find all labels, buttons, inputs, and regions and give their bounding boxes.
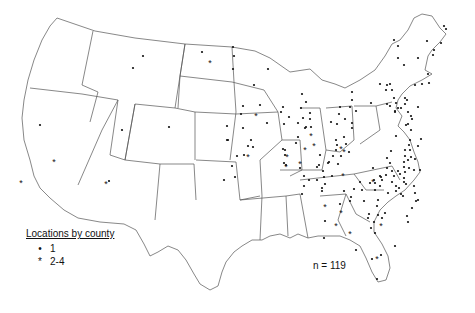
location-dot [372, 167, 374, 169]
location-dot [351, 99, 353, 101]
legend-label: 2-4 [50, 255, 64, 268]
location-dot [376, 278, 378, 280]
location-dot [359, 181, 361, 183]
location-dot [302, 117, 304, 119]
location-dot [403, 181, 405, 183]
location-dot [284, 149, 286, 151]
location-dot [405, 183, 407, 185]
location-asterisk: * [52, 157, 56, 167]
location-dot [408, 167, 410, 169]
location-dot [427, 73, 429, 75]
location-dot [336, 123, 338, 125]
location-dot [426, 40, 428, 42]
location-dot [379, 83, 381, 85]
location-dot [335, 149, 337, 151]
sample-size-label: n = 119 [313, 260, 346, 271]
location-dot [108, 180, 110, 182]
location-dot [309, 118, 311, 120]
location-dot [242, 105, 244, 107]
location-dot [324, 220, 326, 222]
location-dot [397, 57, 399, 59]
location-dot [393, 97, 395, 99]
location-dot [322, 170, 324, 172]
location-asterisk: * [342, 147, 346, 157]
location-dot [410, 115, 412, 117]
location-dot [389, 162, 391, 164]
location-dot [349, 106, 351, 108]
location-dot [350, 196, 352, 198]
location-dot [391, 170, 393, 172]
location-dot [386, 157, 388, 159]
location-dot [280, 111, 282, 113]
location-dot [377, 214, 379, 216]
location-dot [403, 64, 405, 66]
location-dot [386, 103, 388, 105]
location-dot [353, 188, 355, 190]
location-dot [303, 185, 305, 187]
location-dot [376, 205, 378, 207]
location-dot [410, 156, 412, 158]
location-asterisk: * [303, 145, 307, 155]
location-dot [409, 149, 411, 151]
location-dot [337, 163, 339, 165]
location-dot [330, 121, 332, 123]
location-asterisk: * [341, 171, 345, 181]
location-dot [440, 42, 442, 44]
location-dot [223, 179, 225, 181]
location-dot [361, 189, 363, 191]
location-dot [339, 203, 341, 205]
location-dot [371, 258, 373, 260]
location-dot [304, 127, 306, 129]
state-lines [30, 31, 400, 240]
location-dot [389, 83, 391, 85]
location-asterisk: * [104, 179, 108, 189]
location-dot [231, 165, 233, 167]
location-dot [403, 166, 405, 168]
location-dot [323, 237, 325, 239]
legend-title: Locations by county [26, 228, 114, 239]
location-asterisk: * [334, 221, 338, 231]
location-dot [411, 118, 413, 120]
location-dot [345, 143, 347, 145]
location-asterisk: * [19, 178, 23, 188]
location-dot [370, 227, 372, 229]
location-dot [407, 159, 409, 161]
location-dot [428, 82, 430, 84]
location-dot [400, 107, 402, 109]
location-dot [233, 55, 235, 57]
location-dot [234, 176, 236, 178]
location-dot [297, 122, 299, 124]
location-dot [253, 84, 255, 86]
location-dot [351, 91, 353, 93]
location-dot [394, 245, 396, 247]
location-dot [381, 217, 383, 219]
location-dot [168, 126, 170, 128]
location-dot [395, 185, 397, 187]
location-dot [404, 103, 406, 105]
location-asterisk: * [339, 144, 343, 154]
legend-label: 1 [50, 242, 56, 255]
location-dot [297, 136, 299, 138]
location-dot [316, 166, 318, 168]
location-dot [397, 107, 399, 109]
location-dot [408, 144, 410, 146]
location-dot [250, 139, 252, 141]
location-dot [404, 149, 406, 151]
location-dot [242, 127, 244, 129]
location-dot [403, 161, 405, 163]
location-dot [398, 187, 400, 189]
location-dot [370, 102, 372, 104]
location-asterisk: * [208, 58, 212, 68]
location-dot [414, 84, 416, 86]
location-dot [407, 123, 409, 125]
location-dot [348, 151, 350, 153]
location-dot [247, 145, 249, 147]
location-dot [368, 213, 370, 215]
location-dot [411, 207, 413, 209]
location-dot [121, 129, 123, 131]
location-dot [397, 45, 399, 47]
location-asterisk: * [375, 254, 379, 264]
location-dot [409, 139, 411, 141]
location-asterisk: * [371, 177, 375, 187]
location-dot [142, 55, 144, 57]
